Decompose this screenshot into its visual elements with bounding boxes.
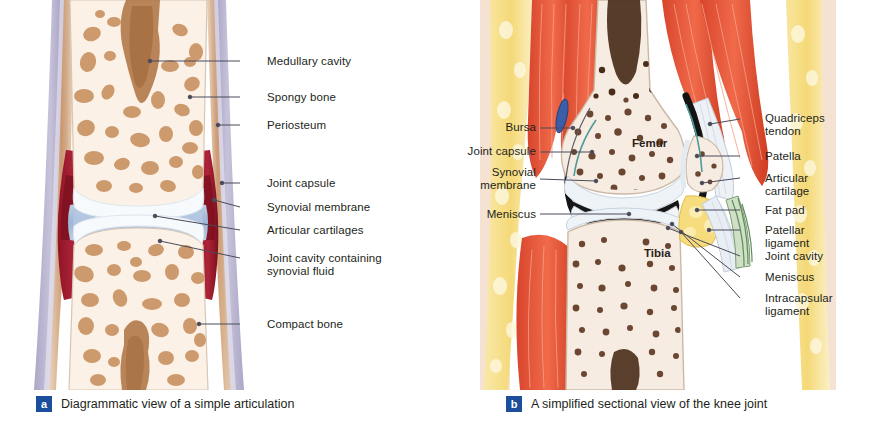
bone-label-femur: Femur — [632, 137, 667, 149]
label-meniscus-left: Meniscus — [450, 208, 536, 221]
label-bursa: Bursa — [450, 121, 536, 134]
label-intracapsular-ligament: Intracapsular ligament — [765, 292, 833, 318]
label-periosteum: Periosteum — [267, 119, 326, 132]
label-articular-cartilages: Articular cartilages — [267, 224, 364, 237]
label-medullary-cavity: Medullary cavity — [267, 55, 351, 68]
caption-b-text: A simplified sectional view of the knee … — [531, 397, 767, 411]
caption-a-text: Diagrammatic view of a simple articulati… — [61, 397, 294, 411]
bone-label-tibia: Tibia — [644, 247, 671, 259]
caption-a: a Diagrammatic view of a simple articula… — [36, 396, 294, 412]
label-joint-capsule-knee: Joint capsule — [450, 145, 536, 158]
label-quadriceps-tendon: Quadriceps tendon — [765, 112, 825, 138]
anatomy-figure: Medullary cavity Spongy bone Periosteum … — [0, 0, 869, 424]
label-joint-capsule: Joint capsule — [267, 177, 335, 190]
label-synovial-membrane: Synovial membrane — [267, 201, 370, 214]
label-joint-cavity-synovial-fluid: Joint cavity containing synovial fluid — [267, 252, 382, 278]
label-meniscus-right: Meniscus — [765, 271, 814, 284]
caption-b: b A simplified sectional view of the kne… — [506, 396, 767, 412]
label-articular-cartilage: Articular cartilage — [765, 172, 809, 198]
caption-badge-a: a — [36, 396, 52, 412]
panel-a-simple-articulation: Medullary cavity Spongy bone Periosteum … — [0, 0, 450, 390]
panel-a-illustration — [0, 0, 450, 390]
label-compact-bone: Compact bone — [267, 318, 343, 331]
label-joint-cavity: Joint cavity — [765, 250, 823, 263]
label-patella: Patella — [765, 150, 801, 163]
caption-badge-b: b — [506, 396, 522, 412]
panel-b-knee-joint: Femur Tibia Bursa Joint capsule Synovial… — [450, 0, 869, 390]
caption-row: a Diagrammatic view of a simple articula… — [0, 396, 869, 424]
label-synovial-membrane-knee: Synovial membrane — [450, 166, 536, 192]
label-spongy-bone: Spongy bone — [267, 91, 336, 104]
label-patellar-ligament: Patellar ligament — [765, 224, 809, 250]
label-fat-pad: Fat pad — [765, 204, 805, 217]
